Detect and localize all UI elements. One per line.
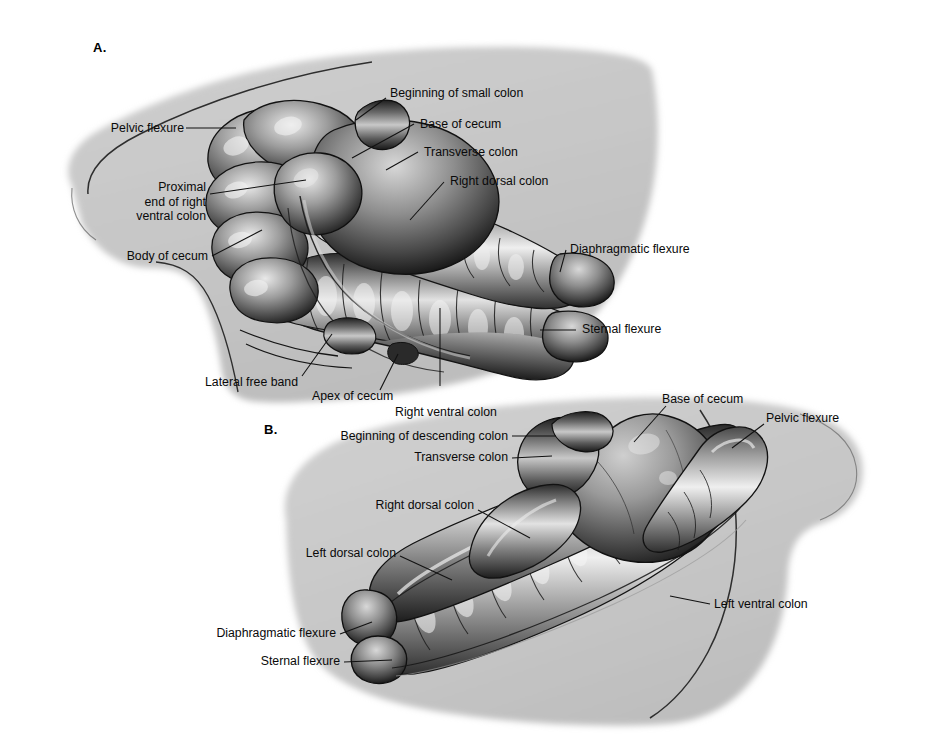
label-base-of-cecum-a: Base of cecum (420, 117, 501, 132)
label-base-of-cecum-b: Base of cecum (662, 392, 743, 407)
anatomy-figure: A. B. Pelvic flexure Proximal end of rig… (0, 0, 940, 755)
label-diaphragmatic-flexure-b: Diaphragmatic flexure (150, 626, 336, 641)
panel-letter-b: B. (264, 422, 278, 437)
label-right-ventral-colon-a: Right ventral colon (395, 405, 497, 420)
panel-letter-a: A. (93, 40, 107, 55)
label-beginning-of-descending-colon: Beginning of descending colon (300, 429, 508, 444)
label-pelvic-flexure-b: Pelvic flexure (766, 411, 839, 426)
label-sternal-flexure-b: Sternal flexure (190, 654, 340, 669)
label-proximal-end-right-ventral-colon: Proximal end of right ventral colon (0, 180, 206, 224)
label-lateral-free-band: Lateral free band (104, 375, 298, 390)
label-apex-of-cecum: Apex of cecum (312, 389, 393, 404)
label-diaphragmatic-flexure-a: Diaphragmatic flexure (570, 242, 690, 257)
label-left-dorsal-colon: Left dorsal colon (240, 546, 396, 561)
label-left-ventral-colon: Left ventral colon (714, 597, 808, 612)
label-beginning-of-small-colon: Beginning of small colon (390, 86, 523, 101)
label-right-dorsal-colon-a: Right dorsal colon (450, 174, 548, 189)
label-sternal-flexure-a: Sternal flexure (582, 322, 661, 337)
label-transverse-colon-a: Transverse colon (424, 145, 518, 160)
label-body-of-cecum: Body of cecum (0, 249, 208, 264)
label-right-dorsal-colon-b: Right dorsal colon (300, 498, 474, 513)
label-pelvic-flexure-a: Pelvic flexure (0, 121, 184, 136)
label-transverse-colon-b: Transverse colon (300, 450, 508, 465)
